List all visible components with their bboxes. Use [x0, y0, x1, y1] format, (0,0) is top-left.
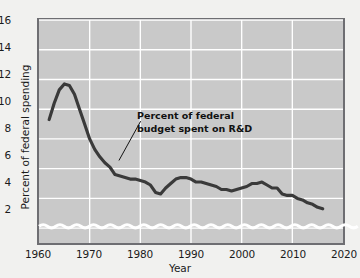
- y-tick-label: 2: [0, 203, 11, 215]
- y-tick-label: 14: [0, 41, 11, 53]
- y-tick-label: 4: [0, 176, 11, 188]
- x-tick-label: 1980: [117, 248, 163, 260]
- y-tick-label: 8: [0, 122, 11, 134]
- series-annotation-label: Percent of federal budget spent on R&D: [137, 110, 252, 135]
- x-tick-label: 1970: [66, 248, 112, 260]
- y-tick-label: 12: [0, 68, 11, 80]
- x-tick-label: 1960: [15, 248, 61, 260]
- annotation-line-1: Percent of federal: [137, 110, 252, 123]
- annotation-line-2: budget spent on R&D: [137, 123, 252, 136]
- x-tick-label: 2000: [219, 248, 265, 260]
- y-tick-label: 6: [0, 149, 11, 161]
- x-tick-label: 1990: [168, 248, 214, 260]
- y-tick-label: 16: [0, 14, 11, 26]
- y-axis-title: Percent of federal spending: [19, 57, 31, 217]
- x-axis-title: Year: [0, 262, 360, 274]
- x-tick-label: 2010: [270, 248, 316, 260]
- chart-figure: 16 14 12 10 8 6 4 2 1960 1970 1980 1990 …: [0, 0, 360, 278]
- y-tick-label: 10: [0, 95, 11, 107]
- x-tick-label: 2020: [321, 248, 360, 260]
